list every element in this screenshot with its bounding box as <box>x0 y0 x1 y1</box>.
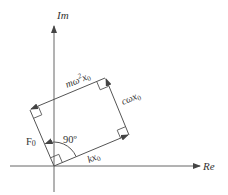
diagram-svg: Im Re mω2x0 cωx0 kx0 F0 90º <box>0 0 228 195</box>
imaginary-axis-label: Im <box>56 9 69 21</box>
angle-label: 90º <box>63 134 78 145</box>
excitation-force-label: F0 <box>26 136 36 148</box>
inertia-force-label: mω2x0 <box>63 69 93 92</box>
damping-force-label: cωx0 <box>120 89 143 109</box>
damping-force-vector <box>106 79 129 135</box>
phasor-diagram: Im Re mω2x0 cωx0 kx0 F0 90º <box>0 0 228 195</box>
real-axis-label: Re <box>202 160 215 172</box>
